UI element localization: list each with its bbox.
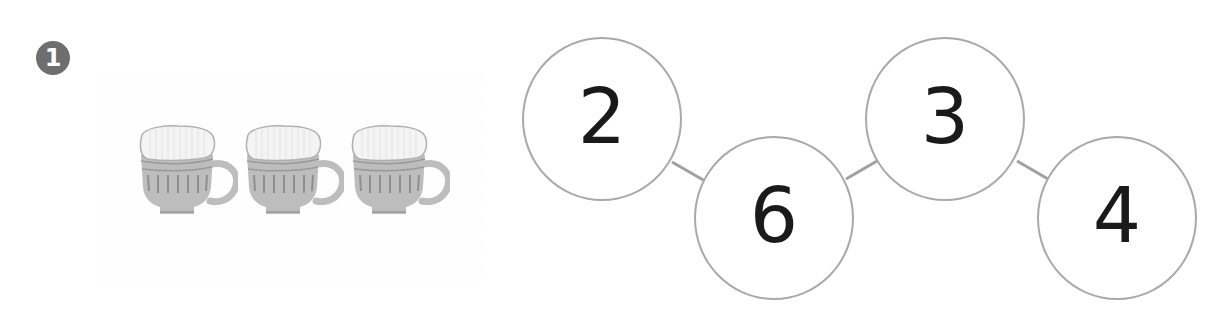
number-circle-1[interactable]: 2 <box>522 37 682 201</box>
connector-line <box>672 162 705 181</box>
number-circle-3[interactable]: 3 <box>865 37 1025 201</box>
number-value: 6 <box>750 178 798 254</box>
connector-line <box>846 161 877 179</box>
connector-line <box>1017 161 1048 179</box>
number-circle-2[interactable]: 6 <box>694 136 854 300</box>
number-value: 2 <box>578 79 626 155</box>
number-circle-4[interactable]: 4 <box>1037 136 1197 300</box>
number-chain: 2 6 3 4 <box>0 0 1228 326</box>
number-value: 4 <box>1093 178 1141 254</box>
number-value: 3 <box>921 79 969 155</box>
